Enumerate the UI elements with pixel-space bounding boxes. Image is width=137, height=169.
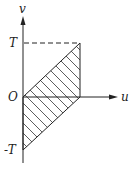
v-axis-arrow-icon	[21, 16, 26, 25]
u-axis-label: u	[121, 90, 129, 104]
tick-label-T: T	[9, 36, 18, 50]
v-axis-label: v	[19, 2, 26, 16]
uv-region-diagram: v u T O -T	[0, 0, 137, 169]
u-axis-arrow-icon	[109, 95, 118, 100]
origin-label: O	[8, 90, 18, 104]
hatch-fill	[0, 0, 137, 169]
tick-label-minus-T: -T	[4, 143, 17, 157]
